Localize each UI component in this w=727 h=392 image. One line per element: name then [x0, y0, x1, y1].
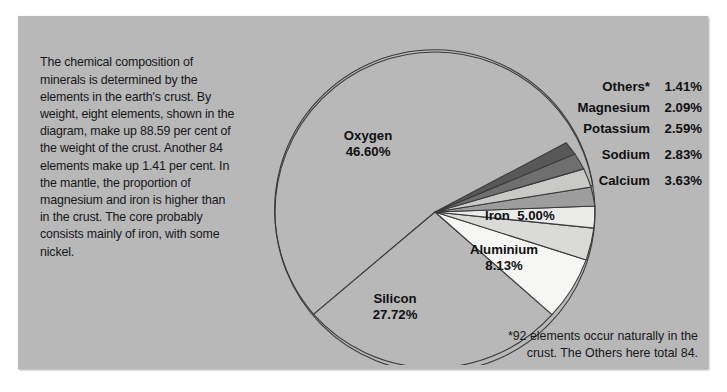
pie-label-calcium-name: Calcium	[599, 173, 650, 188]
pie-label-magnesium: Magnesium2.09%	[502, 100, 702, 115]
pie-label-silicon-pct: 27.72%	[373, 307, 418, 322]
pie-label-iron: Iron 5.00%	[485, 208, 605, 224]
pie-label-aluminium-name: Aluminium	[470, 242, 538, 257]
pie-label-calcium: Calcium3.63%	[502, 173, 702, 188]
pie-label-sodium: Sodium2.83%	[502, 147, 702, 162]
pie-label-others-pct: 1.41%	[650, 79, 702, 94]
pie-label-aluminium: Aluminium 8.13%	[442, 242, 566, 273]
pie-label-aluminium-pct: 8.13%	[485, 258, 522, 273]
pie-label-potassium-name: Potassium	[583, 121, 650, 136]
pie-label-silicon-name: Silicon	[373, 291, 416, 306]
pie-label-sodium-pct: 2.83%	[650, 147, 702, 162]
pie-label-others: Others*1.41%	[502, 79, 702, 94]
pie-label-potassium: Potassium2.59%	[502, 121, 702, 136]
infographic-panel: The chemical composition of minerals is …	[18, 16, 708, 369]
footnote-text: *92 elements occur naturally in the crus…	[488, 328, 698, 361]
pie-label-magnesium-name: Magnesium	[577, 100, 650, 115]
pie-label-oxygen-pct: 46.60%	[346, 144, 391, 159]
intro-paragraph: The chemical composition of minerals is …	[40, 54, 236, 260]
pie-label-oxygen-name: Oxygen	[344, 128, 392, 143]
pie-label-silicon: Silicon 27.72%	[340, 291, 450, 322]
pie-label-others-name: Others*	[602, 79, 650, 94]
pie-label-magnesium-pct: 2.09%	[650, 100, 702, 115]
pie-label-iron-name: Iron	[485, 208, 510, 223]
pie-label-sodium-name: Sodium	[602, 147, 650, 162]
pie-label-iron-pct: 5.00%	[517, 208, 554, 223]
pie-label-potassium-pct: 2.59%	[650, 121, 702, 136]
pie-label-calcium-pct: 3.63%	[650, 173, 702, 188]
pie-label-oxygen: Oxygen 46.60%	[308, 128, 428, 159]
